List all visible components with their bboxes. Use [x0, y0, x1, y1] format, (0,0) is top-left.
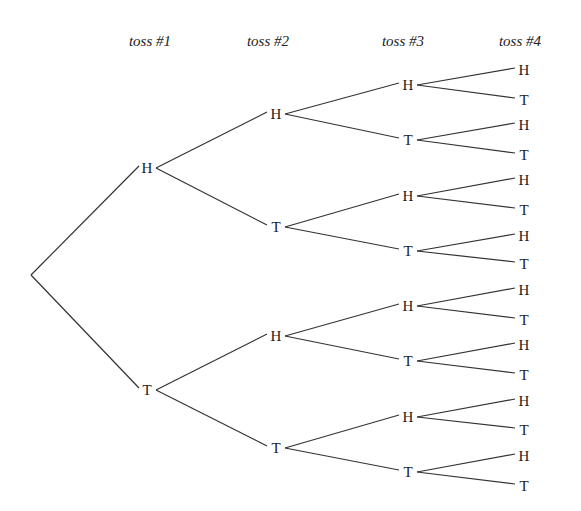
- node-toss3-heads: H: [403, 409, 414, 425]
- node-toss4-tails: T: [519, 147, 528, 163]
- node-toss2-heads: H: [271, 328, 282, 344]
- node-toss3-heads: H: [403, 77, 414, 93]
- branch-level2-to-level3-7: [285, 448, 399, 470]
- branch-level3-to-level4-14: [417, 454, 515, 472]
- branch-level3-to-level4-12: [417, 399, 515, 417]
- branch-level1-to-level2-0: [156, 112, 267, 168]
- node-toss4-tails: T: [519, 312, 528, 328]
- branch-level3-to-level4-10: [417, 343, 515, 361]
- branch-level3-to-level4-9: [417, 306, 515, 318]
- node-toss2-tails: T: [271, 219, 280, 235]
- node-toss3-tails: T: [403, 353, 412, 369]
- node-toss4-tails: T: [519, 422, 528, 438]
- node-toss4-heads: H: [519, 117, 530, 133]
- column-header-toss-4: toss #4: [499, 33, 542, 49]
- branch-level2-to-level3-2: [285, 194, 399, 227]
- branch-level3-to-level4-3: [417, 140, 515, 153]
- branch-level3-to-level4-5: [417, 196, 515, 208]
- branch-level2-to-level3-1: [285, 114, 399, 138]
- node-toss3-heads: H: [403, 298, 414, 314]
- node-toss4-heads: H: [519, 282, 530, 298]
- branch-level3-to-level4-7: [417, 251, 515, 262]
- branch-level3-to-level4-0: [417, 68, 515, 85]
- branch-level3-to-level4-15: [417, 472, 515, 484]
- node-toss4-tails: T: [519, 478, 528, 494]
- node-toss4-heads: H: [519, 393, 530, 409]
- branch-level2-to-level3-0: [285, 83, 399, 114]
- node-toss4-tails: T: [519, 92, 528, 108]
- node-toss4-tails: T: [519, 367, 528, 383]
- node-toss3-tails: T: [403, 464, 412, 480]
- column-header-toss-3: toss #3: [382, 33, 424, 49]
- node-toss4-tails: T: [519, 202, 528, 218]
- node-toss4-heads: H: [519, 228, 530, 244]
- branch-level3-to-level4-6: [417, 234, 515, 251]
- coin-toss-tree-diagram: toss #1toss #2toss #3toss #4 HTHTHTHTHTH…: [0, 0, 581, 511]
- branch-level1-to-level2-3: [156, 390, 267, 446]
- node-toss1-tails: T: [142, 382, 151, 398]
- node-toss4-heads: H: [519, 62, 530, 78]
- node-toss1-heads: H: [142, 160, 153, 176]
- node-toss4-heads: H: [519, 172, 530, 188]
- branch-level3-to-level4-8: [417, 288, 515, 306]
- node-toss3-tails: T: [403, 243, 412, 259]
- branch-level1-to-level2-1: [156, 168, 267, 225]
- branch-level3-to-level4-2: [417, 123, 515, 140]
- node-toss2-heads: H: [271, 106, 282, 122]
- branch-level2-to-level3-4: [285, 304, 399, 336]
- node-toss4-heads: H: [519, 337, 530, 353]
- node-toss3-heads: H: [403, 188, 414, 204]
- branch-root-to-level1-0: [31, 166, 139, 275]
- node-toss4-heads: H: [519, 448, 530, 464]
- branch-level2-to-level3-3: [285, 227, 399, 249]
- column-header-toss-1: toss #1: [129, 33, 171, 49]
- branch-level3-to-level4-13: [417, 417, 515, 428]
- branch-level2-to-level3-6: [285, 415, 399, 448]
- branch-level3-to-level4-1: [417, 85, 515, 98]
- branch-level3-to-level4-4: [417, 178, 515, 196]
- node-toss2-tails: T: [271, 440, 280, 456]
- node-toss4-tails: T: [519, 256, 528, 272]
- branch-root-to-level1-1: [31, 275, 139, 388]
- branch-level1-to-level2-2: [156, 334, 267, 390]
- branch-level3-to-level4-11: [417, 361, 515, 373]
- node-toss3-tails: T: [403, 132, 412, 148]
- column-header-toss-2: toss #2: [247, 33, 290, 49]
- branch-level2-to-level3-5: [285, 336, 399, 359]
